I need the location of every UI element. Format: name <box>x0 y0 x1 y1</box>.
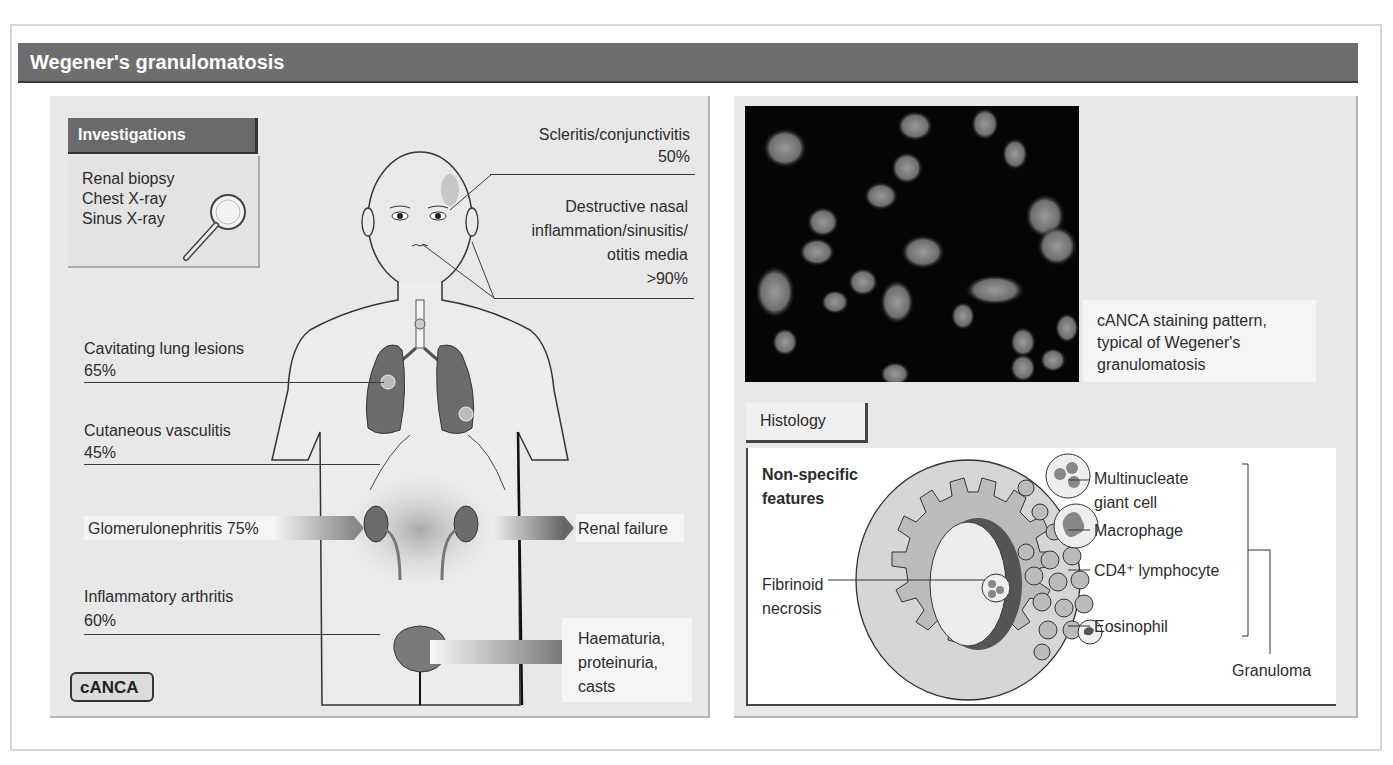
scleritis-value: 50% <box>470 146 690 167</box>
urine-line1: Haematuria, <box>578 628 665 649</box>
arthritis-leader-line <box>84 634 380 635</box>
fibrinoid-necrosis-line1: Fibrinoid <box>762 574 823 595</box>
arrow-head-icon <box>354 516 364 540</box>
giant-cell-label-line2: giant cell <box>1094 492 1157 513</box>
nasal-value: >90% <box>470 268 688 289</box>
figure-title: Wegener's granulomatosis <box>30 51 284 74</box>
canca-staining-micrograph <box>745 106 1079 382</box>
urine-line2: proteinuria, <box>578 652 658 673</box>
arthritis-label: Inflammatory arthritis <box>84 586 233 607</box>
nasal-leader-line <box>494 298 694 299</box>
staining-caption-box: cANCA staining pattern, typical of Wegen… <box>1083 300 1316 382</box>
nasal-leader <box>420 238 500 302</box>
canca-badge: cANCA <box>70 672 154 702</box>
nasal-label-line2: inflammation/sinusitis/ <box>470 220 688 241</box>
histology-diagram-box: Non-specific features Fibrinoid necrosis <box>746 448 1336 706</box>
arrow-head-icon <box>564 516 574 540</box>
arthritis-value: 60% <box>84 610 116 631</box>
eosinophil-label: Eosinophil <box>1094 616 1168 637</box>
lung-leader-line <box>84 382 384 383</box>
investigation-item: Renal biopsy <box>82 168 175 189</box>
fluorescent-nuclei-image <box>745 106 1079 382</box>
investigations-title: Investigations <box>78 126 186 144</box>
lung-lesions-label: Cavitating lung lesions <box>84 338 244 359</box>
histology-tab-label: Histology <box>760 412 826 430</box>
giant-cell-label-line1: Multinucleate <box>1094 468 1188 489</box>
nasal-label-line3: otitis media <box>470 244 688 265</box>
urine-findings-arrow <box>430 640 564 664</box>
macrophage-label: Macrophage <box>1094 520 1183 541</box>
renal-failure-label: Renal failure <box>578 518 668 539</box>
cutaneous-vasculitis-value: 45% <box>84 442 116 463</box>
canca-badge-label: cANCA <box>80 678 139 698</box>
glomerulonephritis-label: Glomerulonephritis 75% <box>88 518 259 539</box>
nasal-label-line1: Destructive nasal <box>470 196 688 217</box>
lung-lesions-value: 65% <box>84 360 116 381</box>
title-bar: Wegener's granulomatosis <box>18 43 1358 83</box>
magnifying-glass-icon <box>176 188 256 264</box>
nonspecific-features-line2: features <box>762 488 824 509</box>
scleritis-label: Scleritis/conjunctivitis <box>470 124 690 145</box>
staining-caption-line2: typical of Wegener's <box>1097 332 1240 353</box>
cutaneous-vasculitis-label: Cutaneous vasculitis <box>84 420 231 441</box>
histology-tab: Histology <box>746 403 868 443</box>
renal-failure-arrow <box>492 516 564 540</box>
urine-line3: casts <box>578 676 615 697</box>
fibrinoid-necrosis-line2: necrosis <box>762 598 822 619</box>
scleritis-leader-line <box>490 174 695 175</box>
lymphocyte-label: CD4⁺ lymphocyte <box>1094 560 1219 581</box>
investigation-item: Sinus X-ray <box>82 208 165 229</box>
staining-caption-line3: granulomatosis <box>1097 354 1206 375</box>
staining-caption-line1: cANCA staining pattern, <box>1097 310 1267 331</box>
granuloma-label: Granuloma <box>1232 660 1311 681</box>
investigations-box: Renal biopsy Chest X-ray Sinus X-ray <box>68 156 260 268</box>
skin-leader-line <box>84 464 380 465</box>
investigation-item: Chest X-ray <box>82 188 166 209</box>
investigations-header: Investigations <box>68 118 258 154</box>
